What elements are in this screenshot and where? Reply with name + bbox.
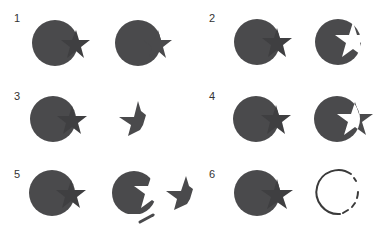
exclude-illustration	[195, 78, 390, 156]
panel-5: 5	[0, 156, 195, 234]
minus-front-illustration	[195, 0, 390, 78]
panel-3: 3	[0, 78, 195, 156]
intersect-illustration	[0, 78, 195, 156]
panel-4: 4	[195, 78, 390, 156]
panel-1: 1	[0, 0, 195, 78]
outline-illustration	[195, 156, 390, 236]
panel-6: 6	[195, 156, 390, 234]
before-shapes	[32, 20, 90, 66]
panel-2: 2	[195, 0, 390, 78]
unite-illustration	[0, 0, 195, 78]
divide-illustration	[0, 156, 195, 236]
after-shape	[115, 20, 172, 66]
